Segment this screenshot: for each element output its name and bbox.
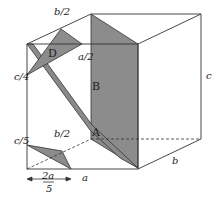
label-c: c xyxy=(206,70,212,81)
label-2a: 2a xyxy=(41,170,54,181)
label-d-region: D xyxy=(48,47,57,60)
label-5: 5 xyxy=(46,183,52,194)
label-b: b xyxy=(172,155,178,166)
box-diagram: B A D b/2 a/2 c/4 c/5 b/2 2a 5 a b c xyxy=(0,0,222,199)
label-a-half: a/2 xyxy=(78,51,94,62)
label-a-region: A xyxy=(91,126,101,139)
label-c-quarter: c/4 xyxy=(14,71,29,82)
label-a: a xyxy=(82,172,88,183)
label-b-half-top: b/2 xyxy=(54,6,70,17)
label-b-half-bottom: b/2 xyxy=(54,128,70,139)
label-b-region: B xyxy=(92,80,100,93)
label-c-fifth: c/5 xyxy=(14,135,29,146)
plane-small xyxy=(27,145,71,169)
